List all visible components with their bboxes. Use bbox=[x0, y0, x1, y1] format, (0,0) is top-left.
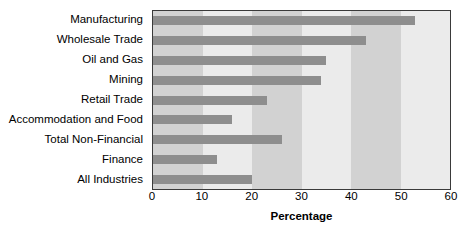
bar-row bbox=[153, 110, 450, 130]
y-axis-tick-label: Manufacturing bbox=[0, 10, 148, 30]
bar-series-layer bbox=[153, 11, 450, 189]
y-axis-tick-label: Total Non-Financial bbox=[0, 130, 148, 150]
plot-area bbox=[152, 10, 451, 190]
bar bbox=[153, 56, 326, 65]
x-axis-tick-label: 50 bbox=[395, 191, 408, 203]
bar-row bbox=[153, 31, 450, 51]
y-axis-tick-label: Finance bbox=[0, 150, 148, 170]
bar bbox=[153, 76, 321, 85]
x-axis-tick-label: 0 bbox=[149, 191, 155, 203]
bar bbox=[153, 175, 252, 184]
x-axis-tick-label: 30 bbox=[295, 191, 308, 203]
y-axis-tick-label: Mining bbox=[0, 70, 148, 90]
bar-row bbox=[153, 90, 450, 110]
bar bbox=[153, 155, 217, 164]
y-axis-label-group: ManufacturingWholesale TradeOil and GasM… bbox=[0, 10, 148, 190]
bar bbox=[153, 115, 232, 124]
x-axis-tick-label: 20 bbox=[245, 191, 258, 203]
y-axis-tick-label: All Industries bbox=[0, 170, 148, 190]
x-axis-tick-group: 0102030405060 bbox=[152, 191, 451, 209]
x-axis-tick-label: 10 bbox=[195, 191, 208, 203]
y-axis-tick-label: Oil and Gas bbox=[0, 50, 148, 70]
x-axis-title: Percentage bbox=[152, 210, 451, 222]
bar-chart: ManufacturingWholesale TradeOil and GasM… bbox=[0, 0, 467, 234]
bar bbox=[153, 96, 267, 105]
x-axis-tick-label: 40 bbox=[345, 191, 358, 203]
bar-row bbox=[153, 149, 450, 169]
bar-row bbox=[153, 130, 450, 150]
y-axis-tick-label: Wholesale Trade bbox=[0, 30, 148, 50]
bar-row bbox=[153, 70, 450, 90]
bar bbox=[153, 16, 415, 25]
bar-row bbox=[153, 51, 450, 71]
y-axis-tick-label: Retail Trade bbox=[0, 90, 148, 110]
bar-row bbox=[153, 11, 450, 31]
y-axis-tick-label: Accommodation and Food bbox=[0, 110, 148, 130]
bar-row bbox=[153, 169, 450, 189]
x-axis-tick-label: 60 bbox=[445, 191, 458, 203]
bar bbox=[153, 135, 282, 144]
bar bbox=[153, 36, 366, 45]
